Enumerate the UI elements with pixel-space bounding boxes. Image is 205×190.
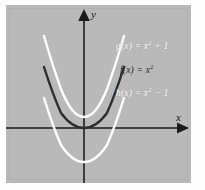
x-axis-label: x bbox=[176, 112, 181, 123]
curve-label-g-fn: g(x) = x bbox=[116, 41, 148, 51]
y-axis-arrow-icon bbox=[78, 9, 90, 21]
y-axis-label: y bbox=[91, 9, 96, 20]
x-axis-arrow-icon bbox=[177, 123, 189, 134]
curve-label-g: g(x) = x2 + 1 bbox=[116, 41, 168, 51]
curve-label-h-fn: h(x) = x bbox=[116, 88, 148, 98]
curve-label-f-fn: f(x) = x bbox=[120, 65, 150, 75]
plot-area: y x g(x) = x2 + 1 f(x) = x2 h(x) = x2 − … bbox=[6, 5, 191, 183]
curve-label-h-suffix: − 1 bbox=[152, 88, 169, 98]
curve-label-g-suffix: + 1 bbox=[152, 41, 169, 51]
figure-container: y x g(x) = x2 + 1 f(x) = x2 h(x) = x2 − … bbox=[0, 0, 205, 190]
curve-label-h: h(x) = x2 − 1 bbox=[116, 88, 168, 98]
curve-label-f: f(x) = x2 bbox=[120, 65, 154, 75]
curve-label-f-exp: 2 bbox=[150, 63, 153, 70]
